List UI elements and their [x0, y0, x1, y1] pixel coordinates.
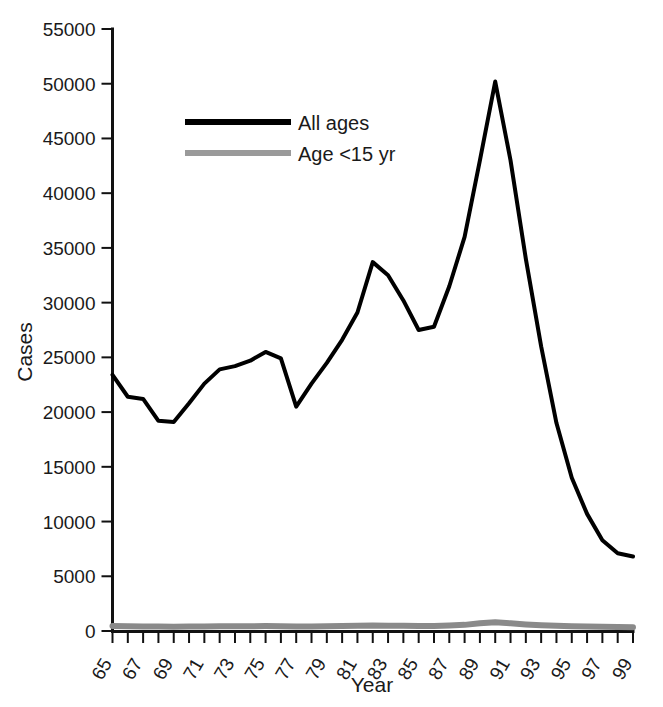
y-tick-label: 55000 — [43, 19, 96, 40]
chart-legend: All agesAge <15 yr — [185, 112, 396, 165]
x-tick-label: 93 — [516, 655, 545, 684]
x-tick-label: 95 — [546, 655, 575, 684]
x-tick-label: 85 — [393, 655, 422, 684]
y-axis-ticks: 0500010000150002000025000300003500040000… — [43, 19, 113, 642]
y-tick-label: 0 — [85, 621, 96, 642]
x-tick-label: 75 — [240, 655, 269, 684]
x-tick-label: 73 — [210, 655, 239, 684]
x-tick-label: 77 — [271, 655, 300, 684]
series-line-age-15-yr — [113, 622, 634, 627]
x-tick-label: 65 — [87, 655, 116, 684]
x-tick-label: 97 — [577, 655, 606, 684]
x-tick-label: 87 — [424, 655, 453, 684]
y-tick-label: 35000 — [43, 238, 96, 259]
chart-svg: 0500010000150002000025000300003500040000… — [0, 0, 663, 707]
legend-label: All ages — [298, 112, 369, 134]
x-tick-label: 69 — [148, 655, 177, 684]
y-tick-label: 5000 — [53, 566, 95, 587]
x-axis-title: Year — [351, 673, 393, 696]
x-tick-label: 67 — [118, 655, 147, 684]
y-tick-label: 15000 — [43, 457, 96, 478]
x-tick-label: 91 — [485, 655, 514, 684]
x-tick-label: 99 — [608, 655, 637, 684]
y-tick-label: 10000 — [43, 512, 96, 533]
y-tick-label: 40000 — [43, 183, 96, 204]
x-tick-label: 89 — [455, 655, 484, 684]
y-axis-title-group: Cases — [13, 322, 36, 382]
y-tick-label: 20000 — [43, 402, 96, 423]
x-tick-label: 79 — [302, 655, 331, 684]
y-tick-label: 45000 — [43, 128, 96, 149]
y-tick-label: 30000 — [43, 293, 96, 314]
legend-label: Age <15 yr — [298, 143, 396, 165]
y-axis-title: Cases — [13, 322, 36, 382]
y-tick-label: 50000 — [43, 74, 96, 95]
y-tick-label: 25000 — [43, 347, 96, 368]
chart-figure: 0500010000150002000025000300003500040000… — [0, 0, 663, 707]
x-tick-label: 71 — [179, 655, 208, 684]
